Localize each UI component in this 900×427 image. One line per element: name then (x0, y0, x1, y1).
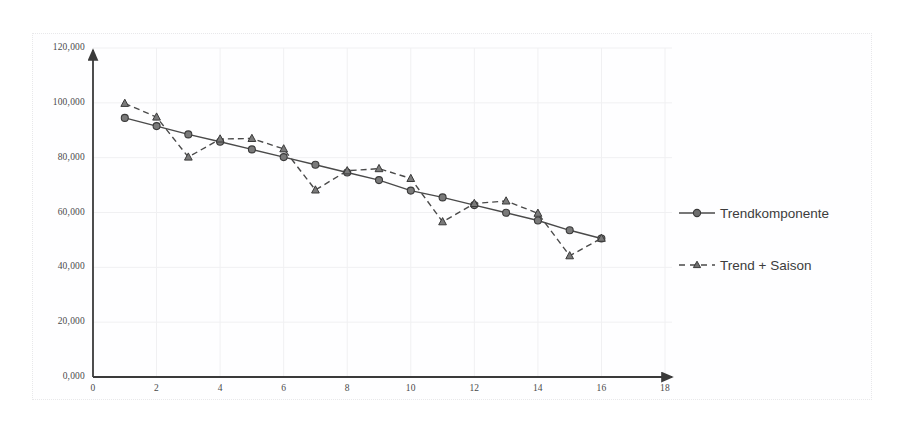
y-axis-tick-label: 60,000 (33, 207, 85, 217)
x-axis-tick-label: 12 (464, 383, 484, 393)
data-point-marker (121, 114, 128, 121)
data-point-marker (376, 177, 383, 184)
data-point-marker (375, 164, 383, 171)
data-point-marker (153, 123, 160, 130)
legend-item-trend-saison[interactable]: Trend + Saison (678, 248, 868, 282)
data-point-marker (534, 217, 541, 224)
x-axis-tick-label: 18 (655, 383, 675, 393)
chart-legend: Trendkomponente Trend + Saison (678, 196, 868, 282)
chart-root: 0,00020,00040,00060,00080,000100,000120,… (0, 0, 900, 427)
x-axis-tick-label: 8 (337, 383, 357, 393)
data-point-marker (566, 252, 574, 259)
data-point-marker (407, 174, 415, 181)
axes (93, 50, 672, 377)
legend-item-trendkomponente[interactable]: Trendkomponente (678, 196, 868, 230)
data-point-marker (503, 209, 510, 216)
series-line-2 (125, 103, 602, 255)
data-point-marker (502, 197, 510, 204)
data-point-marker (312, 161, 319, 168)
data-point-marker (185, 131, 192, 138)
x-axis-tick-label: 2 (147, 383, 167, 393)
x-axis-tick-label: 4 (210, 383, 230, 393)
x-axis-tick-label: 6 (274, 383, 294, 393)
y-axis-tick-label: 100,000 (33, 97, 85, 107)
legend-marker-triangle-icon (678, 258, 716, 272)
x-axis-tick-label: 10 (401, 383, 421, 393)
y-axis-tick-label: 40,000 (33, 261, 85, 271)
y-axis-tick-label: 120,000 (33, 42, 85, 52)
y-axis-tick-label: 80,000 (33, 152, 85, 162)
y-axis-tick-label: 0,000 (33, 371, 85, 381)
x-axis-tick-label: 14 (528, 383, 548, 393)
x-axis-tick-label: 16 (591, 383, 611, 393)
x-axis-tick-label: 0 (83, 383, 103, 393)
data-point-marker (566, 227, 573, 234)
data-point-marker (407, 187, 414, 194)
legend-label-trendkomponente: Trendkomponente (720, 206, 829, 221)
data-point-marker (248, 146, 255, 153)
gridlines (93, 48, 672, 377)
data-point-marker (439, 194, 446, 201)
y-axis-tick-label: 20,000 (33, 316, 85, 326)
legend-marker-circle-icon (678, 206, 716, 220)
legend-label-trend-saison: Trend + Saison (720, 258, 811, 273)
series-line-1 (125, 118, 602, 239)
data-point-marker (280, 154, 287, 161)
data-series-layer (121, 99, 605, 259)
